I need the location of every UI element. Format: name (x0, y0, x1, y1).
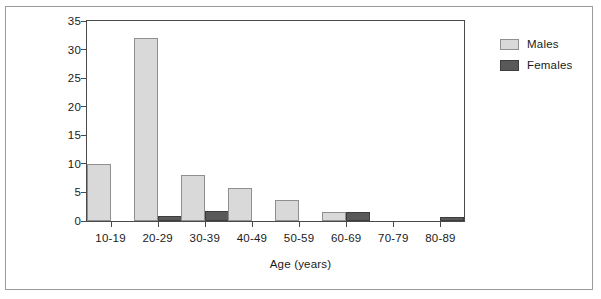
x-axis-tick-mark (111, 221, 112, 227)
legend-swatch-females-icon (500, 60, 519, 71)
legend-label-males: Males (527, 38, 559, 50)
x-axis-title: Age (years) (0, 258, 601, 270)
plot-inner (87, 21, 464, 221)
x-axis-tick-mark (440, 221, 441, 227)
bar-females-60-69 (346, 212, 370, 221)
chart-legend: Males Females (500, 38, 573, 80)
x-axis-tick-mark (346, 221, 347, 227)
bar-males-60-69 (322, 212, 346, 221)
legend-label-females: Females (527, 59, 573, 71)
legend-swatch-males-icon (500, 39, 519, 50)
x-axis-tick-label-50-59: 50-59 (284, 232, 314, 244)
x-axis-tick-mark (393, 221, 394, 227)
bar-females-30-39 (205, 211, 229, 221)
y-axis: 05101520253035 (0, 0, 86, 299)
x-axis-tick-label-40-49: 40-49 (237, 232, 267, 244)
x-axis-tick-label-70-79: 70-79 (378, 232, 408, 244)
x-axis-tick-label-30-39: 30-39 (190, 232, 220, 244)
bar-males-20-29 (134, 38, 158, 221)
legend-item-males: Males (500, 38, 573, 50)
bar-males-10-19 (87, 164, 111, 221)
legend-item-females: Females (500, 59, 573, 71)
plot-area (86, 20, 465, 222)
x-axis-tick-label-60-69: 60-69 (331, 232, 361, 244)
x-axis-tick-mark (252, 221, 253, 227)
bar-females-80-89 (440, 217, 464, 221)
x-axis-tick-mark (299, 221, 300, 227)
bar-males-50-59 (275, 200, 299, 221)
x-axis-tick-label-80-89: 80-89 (425, 232, 455, 244)
x-axis-tick-label-20-29: 20-29 (142, 232, 172, 244)
bar-females-20-29 (158, 216, 182, 221)
x-axis-tick-mark (158, 221, 159, 227)
figure: 05101520253035 10-1920-2930-3940-4950-59… (0, 0, 601, 299)
x-axis-tick-label-10-19: 10-19 (95, 232, 125, 244)
x-axis-tick-mark (205, 221, 206, 227)
bar-males-30-39 (181, 175, 205, 221)
bar-males-40-49 (228, 188, 252, 221)
